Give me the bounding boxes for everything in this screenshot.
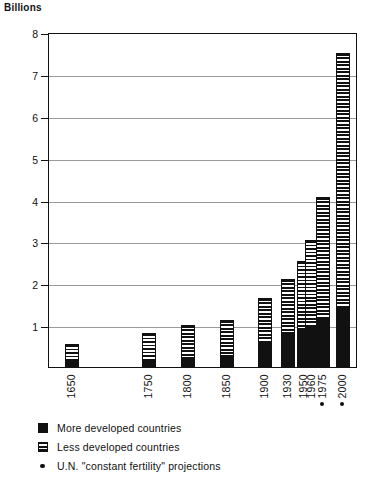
- y-axis-label: 3: [32, 237, 38, 249]
- x-axis-label-1960: 1960: [305, 374, 317, 399]
- y-axis-label: 5: [32, 154, 38, 166]
- bar-1800: [181, 325, 195, 367]
- gridline: [49, 202, 356, 203]
- legend-label: Less developed countries: [57, 441, 180, 453]
- bar-segment-less-developed: [316, 197, 330, 319]
- gridline: [49, 118, 356, 119]
- y-axis-tick: [41, 285, 48, 286]
- y-axis-title: Billions: [4, 2, 42, 13]
- bar-segment-more-developed: [65, 362, 79, 367]
- y-axis-label: 2: [32, 279, 38, 291]
- y-axis-tick: [41, 76, 48, 77]
- y-axis-label: 6: [32, 112, 38, 124]
- y-axis-tick: [41, 243, 48, 244]
- bar-segment-less-developed: [336, 53, 350, 307]
- bar-segment-less-developed: [281, 279, 295, 335]
- plot-inner: 12345678: [49, 34, 356, 367]
- bar-segment-more-developed: [316, 320, 330, 367]
- y-axis-label: 4: [32, 196, 38, 208]
- y-axis-tick: [41, 202, 48, 203]
- legend-label: More developed countries: [57, 422, 181, 434]
- projection-dot-1975: [320, 402, 324, 406]
- bar-segment-more-developed: [336, 307, 350, 367]
- bar-1975: [316, 197, 330, 367]
- legend-label: U.N. "constant fertility" projections: [57, 460, 221, 472]
- x-axis-label-1750: 1750: [142, 374, 154, 399]
- bar-1900: [258, 298, 272, 367]
- y-axis-tick: [41, 34, 48, 35]
- bar-segment-more-developed: [181, 359, 195, 367]
- bar-segment-more-developed: [281, 335, 295, 367]
- gridline: [49, 76, 356, 77]
- bar-segment-more-developed: [258, 344, 272, 367]
- chart-legend: More developed countriesLess developed c…: [38, 418, 338, 475]
- bar-segment-less-developed: [65, 344, 79, 362]
- projection-dot-2000: [340, 402, 344, 406]
- y-axis-tick: [41, 327, 48, 328]
- population-bar-chart: Billions 12345678 1650175018001850190019…: [0, 0, 369, 486]
- bar-segment-less-developed: [258, 298, 272, 344]
- y-axis-label: 8: [32, 28, 38, 40]
- legend-swatch-dot-icon: [38, 461, 48, 471]
- bar-segment-more-developed: [220, 356, 234, 367]
- y-axis-tick: [41, 118, 48, 119]
- y-axis-tick: [41, 160, 48, 161]
- legend-item: U.N. "constant fertility" projections: [38, 456, 338, 475]
- legend-item: More developed countries: [38, 418, 338, 437]
- bar-segment-less-developed: [142, 333, 156, 361]
- y-axis-label: 1: [32, 321, 38, 333]
- legend-swatch-solid-black-icon: [38, 423, 48, 433]
- gridline: [49, 160, 356, 161]
- bar-1850: [220, 320, 234, 367]
- legend-swatch-horizontal-hatch-icon: [38, 442, 48, 452]
- x-axis-label-1800: 1800: [181, 374, 193, 399]
- bar-segment-less-developed: [220, 320, 234, 356]
- x-axis-label-1930: 1930: [281, 374, 293, 399]
- bar-segment-more-developed: [142, 361, 156, 367]
- x-axis-label-1850: 1850: [220, 374, 232, 399]
- x-axis-label-2000: 2000: [336, 374, 348, 399]
- bar-1750: [142, 333, 156, 367]
- bar-1650: [65, 344, 79, 367]
- x-axis-label-1975: 1975: [316, 374, 328, 399]
- x-axis-label-1650: 1650: [65, 374, 77, 399]
- bar-segment-less-developed: [181, 325, 195, 359]
- bar-2000: [336, 53, 350, 367]
- y-axis-label: 7: [32, 70, 38, 82]
- legend-item: Less developed countries: [38, 437, 338, 456]
- plot-area: 12345678: [48, 33, 357, 368]
- x-axis-label-1900: 1900: [258, 374, 270, 399]
- bar-1930: [281, 279, 295, 367]
